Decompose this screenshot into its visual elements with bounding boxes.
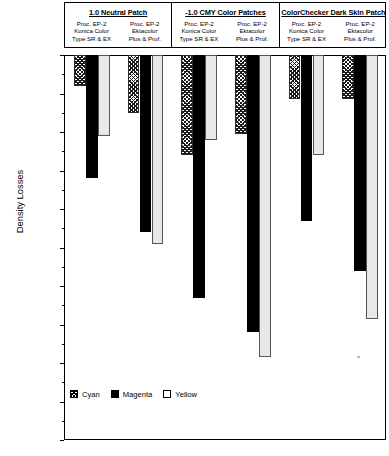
chart-header-band: 1.0 Neutral PatchProc. EP-2Konica ColorT…	[64, 2, 386, 48]
header-column-1: Proc. EP-2Konica ColorType SR & EX	[280, 20, 334, 42]
legend-swatch-magenta-icon	[111, 390, 119, 398]
legend-item-magenta: Magenta	[111, 390, 153, 399]
y-tick-mark	[60, 94, 64, 95]
header-column-line2: Konica Color	[280, 27, 334, 34]
legend-label: Magenta	[123, 390, 153, 399]
bar-cyan-5	[289, 55, 301, 99]
y-tick-mark-minor	[62, 190, 65, 191]
header-group-title: 1.0 Neutral Patch	[65, 8, 171, 17]
scan-artifact	[357, 356, 360, 358]
bar-yellow-5	[313, 55, 325, 155]
header-group-3: ColorChecker Dark Skin PatchProc. EP-2Ko…	[280, 3, 387, 47]
y-tick-mark	[60, 209, 64, 210]
header-group-title: -1.0 CMY Color Patches	[172, 8, 278, 17]
y-tick-mark	[60, 132, 64, 133]
legend-label: Cyan	[82, 390, 100, 399]
y-tick-mark-minor	[62, 382, 65, 383]
bar-magenta-1	[86, 55, 98, 178]
legend-item-cyan: Cyan	[70, 390, 100, 399]
bar-cyan-4	[235, 55, 247, 134]
header-group-1: 1.0 Neutral PatchProc. EP-2Konica ColorT…	[65, 3, 172, 47]
header-column-2: Proc. EP-2EktacolorPlus & Prof.	[118, 20, 171, 42]
y-tick-mark-minor	[62, 113, 65, 114]
y-tick-mark-minor	[62, 344, 65, 345]
y-tick-mark	[60, 55, 64, 56]
header-column-line3: Type SR & EX	[65, 35, 118, 42]
bar-magenta-4	[247, 55, 259, 332]
header-column-line1: Proc. EP-2	[65, 20, 118, 27]
y-tick-mark-minor	[62, 74, 65, 75]
y-tick-mark	[60, 286, 64, 287]
header-column-line3: Plus & Prof.	[226, 35, 279, 42]
y-tick-mark	[60, 171, 64, 172]
header-group-columns: Proc. EP-2Konica ColorType SR & EXProc. …	[65, 20, 171, 42]
header-column-line1: Proc. EP-2	[226, 20, 279, 27]
bar-series-container	[65, 55, 386, 439]
bar-cyan-6	[342, 55, 354, 99]
header-column-2: Proc. EP-2EktacolorPlus & Prof.	[333, 20, 387, 42]
header-group-columns: Proc. EP-2Konica ColorType SR & EXProc. …	[280, 20, 387, 42]
header-column-line2: Konica Color	[65, 27, 118, 34]
legend-item-yellow: Yellow	[163, 390, 197, 399]
legend-label: Yellow	[175, 390, 197, 399]
bar-magenta-6	[354, 55, 366, 271]
y-tick-mark-minor	[62, 267, 65, 268]
header-column-line1: Proc. EP-2	[333, 20, 387, 27]
bar-cyan-1	[74, 55, 86, 86]
header-column-line3: Type SR & EX	[280, 35, 334, 42]
header-column-line2: Ektacolor	[226, 27, 279, 34]
header-column-line1: Proc. EP-2	[118, 20, 171, 27]
y-tick-mark	[60, 325, 64, 326]
bar-magenta-3	[193, 55, 205, 298]
bar-yellow-6	[366, 55, 378, 319]
y-tick-mark-minor	[62, 421, 65, 422]
header-column-line3: Plus & Prof.	[333, 35, 387, 42]
header-column-line2: Ektacolor	[118, 27, 171, 34]
y-tick-mark-minor	[62, 305, 65, 306]
legend-swatch-yellow-icon	[163, 390, 171, 398]
header-column-1: Proc. EP-2Konica ColorType SR & EX	[172, 20, 225, 42]
y-tick-mark	[60, 248, 64, 249]
header-column-line3: Plus & Prof.	[118, 35, 171, 42]
y-tick-mark-minor	[62, 228, 65, 229]
bar-cyan-3	[181, 55, 193, 155]
header-column-line2: Konica Color	[172, 27, 225, 34]
legend-swatch-cyan-icon	[70, 390, 78, 398]
bar-yellow-1	[98, 55, 110, 136]
bar-magenta-2	[140, 55, 152, 232]
header-group-columns: Proc. EP-2Konica ColorType SR & EXProc. …	[172, 20, 278, 42]
chart-figure: 1.0 Neutral PatchProc. EP-2Konica ColorT…	[0, 0, 389, 456]
y-axis-label: Density Losses	[14, 147, 25, 257]
header-column-line1: Proc. EP-2	[280, 20, 334, 27]
header-column-line1: Proc. EP-2	[172, 20, 225, 27]
header-column-line3: Type SR & EX	[172, 35, 225, 42]
bar-yellow-4	[259, 55, 271, 357]
header-column-1: Proc. EP-2Konica ColorType SR & EX	[65, 20, 118, 42]
y-tick-mark	[60, 440, 64, 441]
bar-magenta-5	[301, 55, 313, 221]
y-tick-mark-minor	[62, 151, 65, 152]
chart-legend: CyanMagentaYellow	[70, 386, 250, 402]
header-column-2: Proc. EP-2EktacolorPlus & Prof.	[226, 20, 279, 42]
header-group-title: ColorChecker Dark Skin Patch	[280, 8, 387, 17]
header-group-2: -1.0 CMY Color PatchesProc. EP-2Konica C…	[172, 3, 279, 47]
bar-yellow-3	[205, 55, 217, 140]
header-column-line2: Ektacolor	[333, 27, 387, 34]
bar-yellow-2	[152, 55, 164, 244]
y-tick-mark	[60, 363, 64, 364]
plot-area	[64, 55, 386, 440]
y-tick-mark	[60, 402, 64, 403]
bar-cyan-2	[128, 55, 140, 113]
